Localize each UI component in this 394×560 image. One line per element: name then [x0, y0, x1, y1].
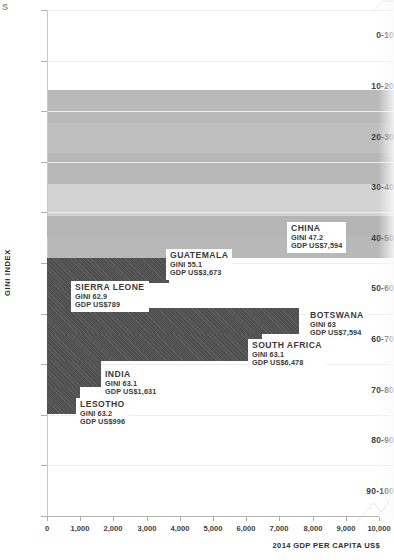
- x-axis-tick-label: 0: [45, 524, 49, 533]
- x-axis-tick: [379, 517, 380, 521]
- x-axis-tick-label: 8,000: [303, 524, 322, 533]
- callout-china: CHINAGINI 47.2GDP US$7,594: [287, 222, 346, 253]
- callout-botswana: BOTSWANAGINI 63GDP US$7,594: [306, 309, 368, 340]
- callout-south-africa: SOUTH AFRICAGINI 63.1GDP US$6,478: [248, 339, 326, 370]
- corner-glyph-fragment: S: [2, 2, 8, 12]
- gini-gdp-chart: S 0-1010-2020-3030-4040-5050-6060-7070-8…: [0, 0, 394, 560]
- callout-guatemala: GUATEMALAGINI 55.1GDP US$3,673: [166, 249, 232, 280]
- callout-lesotho: LESOTHOGINI 63.2GDP US$996: [76, 398, 129, 429]
- x-axis-tick: [80, 517, 81, 521]
- x-axis-tick: [246, 517, 247, 521]
- callout-india: INDIAGINI 63.1GDP US$1,631: [101, 368, 160, 399]
- callout-gdp-value: GDP US$7,594: [310, 329, 364, 337]
- callout-gdp-value: GDP US$7,594: [291, 242, 342, 250]
- y-axis-title: GINI INDEX: [3, 249, 12, 296]
- bar-india: [47, 361, 101, 387]
- x-axis-tick: [113, 517, 114, 521]
- bar-south-africa: [47, 334, 262, 361]
- x-axis-tick: [346, 517, 347, 521]
- x-axis-tick: [147, 517, 148, 521]
- x-axis-tick-label: 1,000: [70, 524, 89, 533]
- x-axis-tick-label: 2,000: [103, 524, 122, 533]
- x-axis-tick-label: 9,000: [336, 524, 355, 533]
- bar-sierra-leone: [47, 283, 73, 308]
- x-axis-tick-label: 10,000: [367, 524, 390, 533]
- callout-gdp-value: GDP US$6,478: [252, 359, 322, 367]
- x-axis-tick-label: 5,000: [203, 524, 222, 533]
- x-axis-tick: [180, 517, 181, 521]
- x-axis-title: 2014 GDP PER CAPITA US$: [272, 541, 380, 550]
- x-axis-tick-label: 3,000: [137, 524, 156, 533]
- callout-sierra-leone: SIERRA LEONEGINI 62.9GDP US$789: [71, 281, 149, 312]
- x-axis-tick-label: 4,000: [170, 524, 189, 533]
- callout-gdp-value: GDP US$1,631: [105, 388, 156, 396]
- x-axis-tick: [47, 517, 48, 521]
- callout-gdp-value: GDP US$996: [80, 418, 125, 426]
- x-axis-tick: [213, 517, 214, 521]
- x-axis-tick: [313, 517, 314, 521]
- bar-china: [47, 216, 299, 238]
- callout-gdp-value: GDP US$789: [75, 301, 145, 309]
- x-axis-tick-label: 6,000: [236, 524, 255, 533]
- x-axis-tick: [279, 517, 280, 521]
- callout-gdp-value: GDP US$3,673: [170, 269, 228, 277]
- bar-guatemala: [47, 258, 169, 283]
- x-axis-tick-label: 7,000: [269, 524, 288, 533]
